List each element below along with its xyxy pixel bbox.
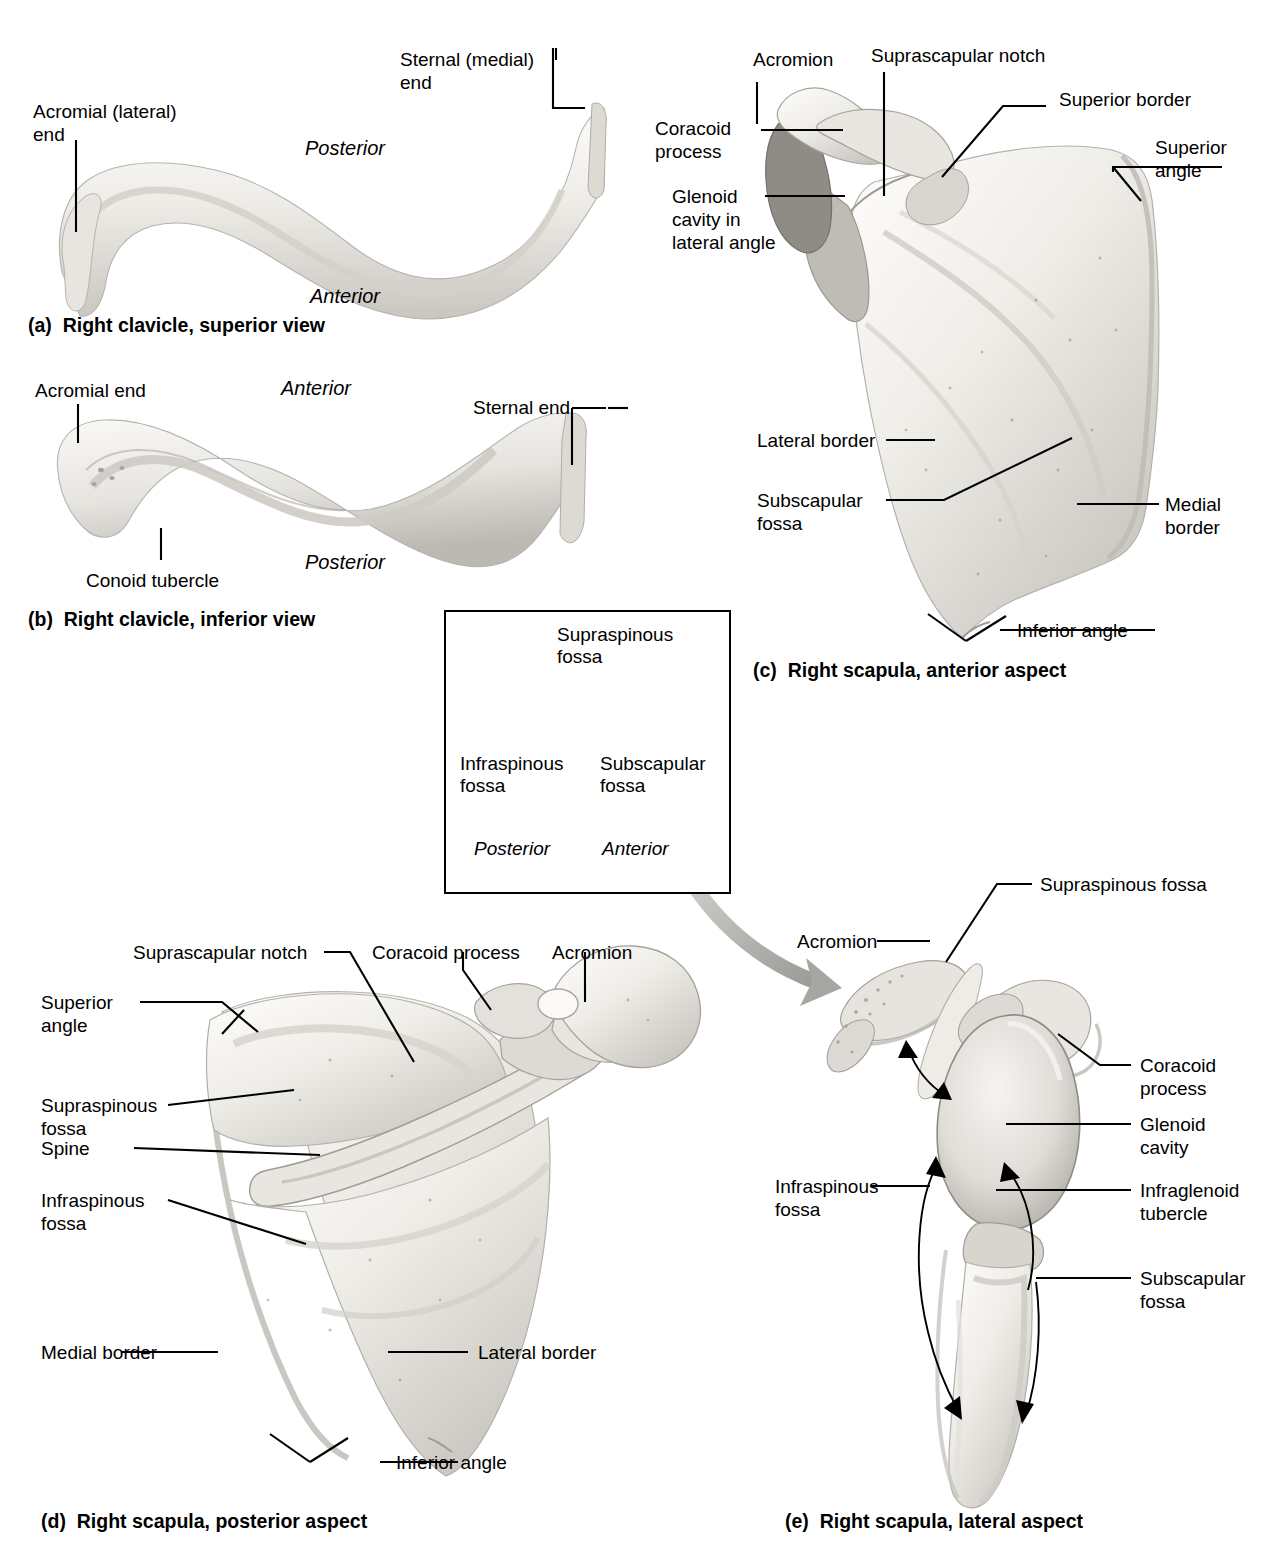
- label-conoid-tubercle: Conoid tubercle: [86, 569, 219, 592]
- label-acromion-d: Acromion: [552, 941, 632, 964]
- inset-label-anterior: Anterior: [602, 838, 669, 860]
- label-lateral-border-d: Lateral border: [478, 1341, 596, 1364]
- label-coracoid-process-d: Coracoid process: [372, 941, 520, 964]
- label-medial-border-c: Medial border: [1165, 493, 1221, 539]
- inset-label-supraspinous-fossa: Supraspinous fossa: [557, 624, 673, 668]
- label-sternal-medial-end: Sternal (medial) end: [400, 48, 534, 94]
- label-lateral-border-c: Lateral border: [757, 429, 875, 452]
- label-anterior-a: Anterior: [310, 285, 380, 308]
- scapula-lateral-illustration: [827, 961, 1100, 1508]
- label-superior-border: Superior border: [1059, 88, 1191, 111]
- label-infraspinous-fossa-d: Infraspinous fossa: [41, 1189, 145, 1235]
- label-supraspinous-fossa-e: Supraspinous fossa: [1040, 873, 1207, 896]
- label-supraspinous-fossa-d: Supraspinous fossa: [41, 1094, 157, 1140]
- caption-panel-b: (b) Right clavicle, inferior view: [28, 608, 315, 631]
- label-acromion-e: Acromion: [797, 930, 877, 953]
- scapula-anterior-illustration: [766, 88, 1159, 638]
- label-coracoid-process-e: Coracoid process: [1140, 1054, 1216, 1100]
- caption-panel-a: (a) Right clavicle, superior view: [28, 314, 325, 337]
- label-suprascapular-notch-d: Suprascapular notch: [133, 941, 307, 964]
- label-medial-border-d: Medial border: [41, 1341, 157, 1364]
- label-anterior-b: Anterior: [281, 377, 351, 400]
- inset-label-infraspinous-fossa: Infraspinous fossa: [460, 753, 564, 797]
- clavicle-inferior-illustration: [57, 413, 586, 567]
- caption-panel-c: (c) Right scapula, anterior aspect: [753, 659, 1066, 682]
- label-posterior-b: Posterior: [305, 551, 385, 574]
- label-coracoid-process-c: Coracoid process: [655, 117, 731, 163]
- label-superior-angle-d: Superior angle: [41, 991, 113, 1037]
- label-subscapular-fossa-c: Subscapular fossa: [757, 489, 863, 535]
- anatomy-figure-plate: Acromial (lateral) end Sternal (medial) …: [0, 0, 1278, 1566]
- caption-panel-d: (d) Right scapula, posterior aspect: [41, 1510, 367, 1533]
- label-suprascapular-notch-c: Suprascapular notch: [871, 44, 1045, 67]
- label-glenoid-cavity-e: Glenoid cavity: [1140, 1113, 1206, 1159]
- label-inferior-angle-c: Inferior angle: [1017, 619, 1128, 642]
- label-inferior-angle-d: Inferior angle: [396, 1451, 507, 1474]
- inset-label-posterior: Posterior: [474, 838, 550, 860]
- label-superior-angle-c: Superior angle: [1155, 136, 1227, 182]
- label-posterior-a: Posterior: [305, 137, 385, 160]
- label-sternal-end: Sternal end: [473, 396, 570, 419]
- inset-label-subscapular-fossa: Subscapular fossa: [600, 753, 706, 797]
- label-acromial-end: Acromial end: [35, 379, 146, 402]
- label-infraglenoid-tubercle-e: Infraglenoid tubercle: [1140, 1179, 1239, 1225]
- label-acromion-c: Acromion: [753, 48, 833, 71]
- caption-panel-e: (e) Right scapula, lateral aspect: [785, 1510, 1083, 1533]
- label-infraspinous-fossa-e: Infraspinous fossa: [775, 1175, 879, 1221]
- scapula-posterior-illustration: [207, 946, 701, 1476]
- label-subscapular-fossa-e: Subscapular fossa: [1140, 1267, 1246, 1313]
- label-spine-d: Spine: [41, 1137, 90, 1160]
- label-glenoid-cavity-lateral-angle: Glenoid cavity in lateral angle: [672, 185, 776, 254]
- label-acromial-lateral-end: Acromial (lateral) end: [33, 100, 177, 146]
